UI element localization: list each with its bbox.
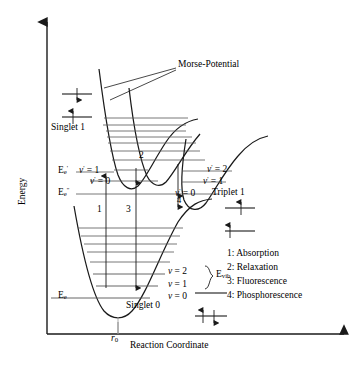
process-number-phosphorescence: 4 [177,196,181,205]
leader-line-upper [104,68,176,88]
process-number-relaxation: 2 [139,151,144,161]
x-axis-tick-label: r0 [111,334,118,344]
ground-vib-label-v1: v = 1 [168,280,187,290]
triplet-vib-label-v1: v' = 1 [203,176,223,187]
e-e-ground-label: Ee [58,291,67,301]
diagram-canvas [0,0,356,366]
energy-diagram-figure: Energy Reaction Coordinate r0 Morse-Pote… [0,0,356,366]
singlet1-spin-symbol [62,88,92,124]
triplet1-label: Triplet 1 [212,188,245,198]
triplet1-curve-group [76,136,268,209]
process-number-fluorescence: 3 [126,205,131,215]
excited-vib-label-v0: v' = 0 [90,176,110,187]
morse-potential-label: Morse-Potential [178,60,239,70]
singlet1-label: Singlet 1 [51,123,85,133]
ground-vib-label-v2: v = 2 [168,267,187,277]
leader-line-lower [110,70,176,100]
singlet0-spin-symbol [195,293,227,323]
excited-vib-label-v1: v' = 1 [79,165,99,176]
x-axis-label: Reaction Coordinate [130,341,208,351]
legend-item-fluorescence: 3: Fluorescence [227,277,287,287]
process-number-absorption: 1 [97,205,102,215]
triplet1-spin-symbol [225,202,255,238]
triplet-vib-label-v2: v' = 2 [207,164,227,175]
ground-state-curve-group [51,199,212,334]
e-vib-bracket [205,266,213,289]
e-e-prime-label: Ee' [58,165,68,176]
y-axis-label: Energy [18,178,28,205]
legend-item-relaxation: 2: Relaxation [227,263,278,273]
e-e-double-prime-label: Ee'' [58,187,69,198]
bracket-shape [205,266,213,289]
legend-item-absorption: 1: Absorption [227,249,279,259]
singlet0-label: Singlet 0 [126,301,160,311]
morse-potential-leader [104,68,176,100]
ground-vib-label-v0: v = 0 [168,292,187,302]
legend-item-phosphorescence: 4: Phosphorescence [227,291,302,301]
